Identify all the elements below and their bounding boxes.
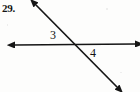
diagonal-line	[36, 5, 117, 87]
angle-label-4: 4	[90, 47, 96, 60]
intersecting-lines-diagram	[0, 0, 140, 92]
angle-label-3: 3	[50, 29, 56, 42]
geometry-figure: 29. 3 4	[0, 0, 140, 92]
